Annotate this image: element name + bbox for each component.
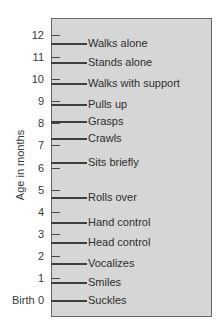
milestone-label-sits-briefly: Sits briefly — [88, 156, 139, 168]
y-tick-label-2: 2 — [38, 250, 44, 262]
y-tick-9 — [51, 101, 60, 102]
milestone-label-hand-control: Hand control — [88, 216, 150, 228]
y-tick-2 — [51, 256, 60, 257]
milestone-line-walks-with-support — [51, 83, 87, 85]
milestone-label-walks-with-support: Walks with support — [88, 77, 180, 89]
y-tick-5 — [51, 190, 60, 191]
milestone-line-smiles — [51, 282, 87, 284]
y-tick-label-9: 9 — [38, 95, 44, 107]
milestone-line-rolls-over — [51, 197, 87, 199]
birth-label: Birth — [12, 294, 35, 306]
milestone-label-grasps: Grasps — [88, 115, 123, 127]
milestone-label-walks-alone: Walks alone — [88, 37, 148, 49]
y-tick-4 — [51, 212, 60, 213]
milestone-label-pulls-up: Pulls up — [88, 98, 127, 110]
milestone-label-suckles: Suckles — [88, 294, 127, 306]
y-tick-10 — [51, 79, 60, 80]
milestone-label-rolls-over: Rolls over — [88, 191, 137, 203]
milestone-label-stands-alone: Stands alone — [88, 56, 152, 68]
y-tick-label-3: 3 — [38, 228, 44, 240]
y-axis-title: Age in months — [14, 130, 26, 200]
y-tick-label-6: 6 — [38, 162, 44, 174]
y-tick-7 — [51, 145, 60, 146]
y-tick-11 — [51, 57, 60, 58]
milestone-line-suckles — [51, 300, 87, 302]
milestone-label-crawls: Crawls — [88, 132, 122, 144]
y-tick-label-12: 12 — [32, 29, 44, 41]
y-tick-1 — [51, 278, 60, 279]
milestone-line-pulls-up — [51, 104, 87, 106]
milestone-line-walks-alone — [51, 43, 87, 45]
motor-milestones-chart: Age in months 12 11 10 9 8 7 6 5 4 3 2 1… — [0, 0, 224, 330]
milestone-label-smiles: Smiles — [88, 276, 121, 288]
milestone-line-hand-control — [51, 222, 87, 224]
y-tick-label-11: 11 — [33, 51, 44, 63]
y-tick-label-5: 5 — [38, 184, 44, 196]
y-tick-label-1: 1 — [38, 272, 44, 284]
y-tick-label-0: 0 — [38, 294, 44, 306]
milestone-line-stands-alone — [51, 62, 87, 64]
y-tick-label-8: 8 — [38, 117, 44, 129]
milestone-label-vocalizes: Vocalizes — [88, 257, 134, 269]
milestone-line-head-control — [51, 242, 87, 244]
y-tick-label-4: 4 — [38, 206, 44, 218]
milestone-line-crawls — [51, 138, 87, 140]
milestone-line-sits-briefly — [51, 162, 87, 164]
y-tick-12 — [51, 35, 60, 36]
milestone-line-grasps — [51, 121, 87, 123]
y-tick-3 — [51, 234, 60, 235]
y-tick-8 — [51, 123, 60, 124]
milestone-line-vocalizes — [51, 263, 87, 265]
milestone-label-head-control: Head control — [88, 236, 150, 248]
y-tick-label-10: 10 — [32, 73, 44, 85]
y-tick-label-7: 7 — [38, 139, 44, 151]
y-tick-6 — [51, 168, 60, 169]
